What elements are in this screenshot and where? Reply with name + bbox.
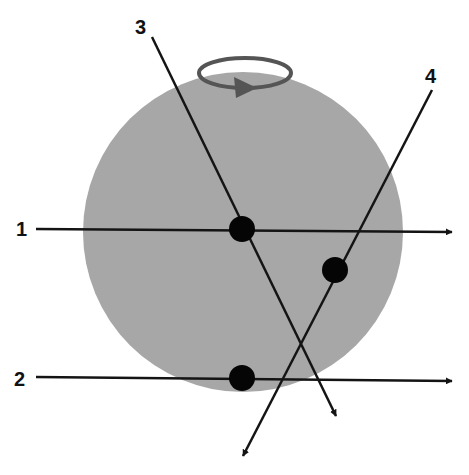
particle-paths-diagram: 1 2 3 4: [0, 0, 469, 475]
path-label-4: 4: [425, 65, 437, 87]
particle-dot-line-1: [229, 216, 255, 242]
path-label-3: 3: [135, 16, 146, 38]
particle-dot-line-4: [322, 257, 348, 283]
path-label-2: 2: [14, 368, 25, 390]
particle-dot-line-2: [229, 365, 255, 391]
path-label-1: 1: [16, 218, 27, 240]
